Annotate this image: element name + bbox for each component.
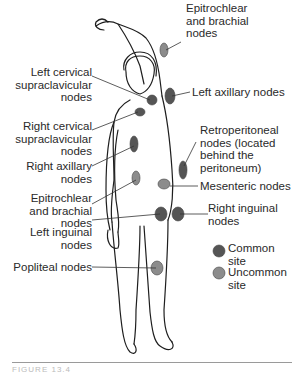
legend-common-label: Common site (228, 242, 275, 267)
label-left-axillary: Left axillary nodes (192, 86, 285, 99)
legend-uncommon-swatch (213, 267, 225, 279)
legend-common-swatch (213, 245, 225, 257)
label-right-cervical: Right cervical supraclavicular nodes (15, 120, 92, 158)
figure-caption: FIGURE 13.4 (12, 365, 71, 372)
caption-divider (12, 362, 292, 363)
label-left-cervical: Left cervical supraclavicular nodes (15, 66, 92, 104)
label-right-axillary: Right axillary nodes (26, 160, 92, 185)
epitrochlear-side-node (132, 171, 140, 185)
label-retroperitoneal: Retroperitoneal nodes (located behind th… (200, 124, 279, 174)
label-left-inguinal: Left inguinal nodes (30, 226, 92, 251)
label-right-inguinal: Right inguinal nodes (208, 202, 278, 227)
retroperitoneal-node (179, 161, 187, 179)
left-cervical-node (147, 95, 157, 105)
label-mesenteric: Mesenteric nodes (200, 180, 291, 193)
legend-uncommon-label: Uncommon site (228, 266, 287, 291)
label-epitrochlear-top: Epitrochlear and brachial nodes (186, 2, 249, 40)
label-epitrochlear-side: Epitrochlear and brachial nodes (29, 192, 92, 230)
right-axillary-node (130, 136, 138, 152)
right-cervical-node (135, 108, 145, 116)
label-popliteal: Popliteal nodes (13, 261, 92, 274)
mesenteric-node (158, 179, 170, 189)
